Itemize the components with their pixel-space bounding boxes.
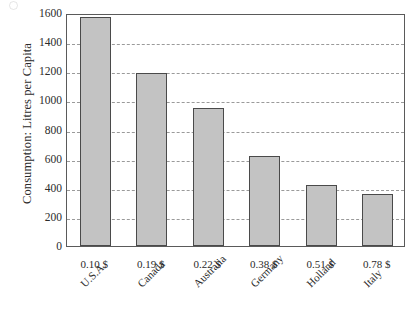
bar-u-s-a bbox=[80, 17, 111, 246]
gridline bbox=[67, 73, 404, 74]
gridline bbox=[67, 161, 404, 162]
y-tick-label: 600 bbox=[16, 154, 62, 166]
gridline bbox=[67, 44, 404, 45]
y-tick-label: 400 bbox=[16, 183, 62, 195]
bar-canada bbox=[136, 73, 167, 246]
gridline bbox=[67, 102, 404, 103]
y-tick-label: 1200 bbox=[16, 67, 62, 79]
gridline bbox=[67, 219, 404, 220]
country-label: Italy bbox=[361, 267, 384, 290]
bar-chart-figure: Consumption: Litres per Capita 020040060… bbox=[0, 0, 417, 333]
bar-holland bbox=[306, 185, 337, 246]
y-tick-label: 800 bbox=[16, 125, 62, 137]
y-tick-label: 0 bbox=[16, 241, 62, 253]
gridline bbox=[67, 190, 404, 191]
y-tick-label: 200 bbox=[16, 212, 62, 224]
gridline bbox=[67, 132, 404, 133]
bar-australia bbox=[193, 108, 224, 246]
y-tick-label: 1000 bbox=[16, 96, 62, 108]
bar-italy bbox=[362, 194, 393, 246]
y-tick-label: 1400 bbox=[16, 37, 62, 49]
plot-area bbox=[66, 14, 405, 247]
bar-germany bbox=[249, 156, 280, 246]
y-tick-label: 1600 bbox=[16, 8, 62, 20]
